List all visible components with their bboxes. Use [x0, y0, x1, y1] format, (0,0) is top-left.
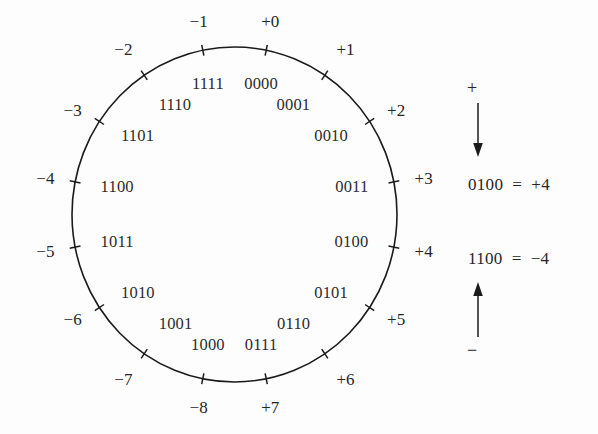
circle-outline-group [72, 47, 397, 382]
decimal-label-0000: +0 [261, 13, 279, 30]
tick-mark-0101 [365, 305, 374, 311]
binary-label-1100: 1100 [101, 179, 134, 196]
binary-label-0110: 0110 [277, 316, 310, 333]
tick-mark-1101 [95, 118, 104, 124]
tick-mark-1000 [202, 373, 204, 384]
tick-mark-0000 [265, 45, 267, 56]
decimal-label-0011: +3 [415, 169, 433, 186]
tick-mark-1010 [95, 305, 104, 311]
decimal-label-0101: +5 [387, 311, 405, 328]
tick-mark-0110 [322, 349, 328, 358]
legend-negative-sign: − [467, 341, 477, 359]
binary-label-1010: 1010 [121, 285, 155, 302]
decimal-label-0010: +2 [387, 101, 405, 118]
decimal-label-1000: −8 [190, 399, 208, 416]
binary-label-1111: 1111 [192, 76, 224, 93]
tick-mark-0011 [388, 181, 399, 183]
number-circle-outline [72, 47, 397, 382]
tick-mark-1100 [70, 181, 81, 183]
binary-label-1000: 1000 [191, 337, 225, 354]
binary-label-1110: 1110 [159, 97, 192, 114]
binary-label-0010: 0010 [314, 128, 348, 145]
circle-diagram-svg [0, 0, 598, 434]
legend-positive-equation: 0100 = +4 [468, 176, 550, 193]
legend-negative-equation: 1100 = −4 [468, 250, 549, 267]
tick-mark-0100 [388, 246, 399, 248]
decimal-label-0110: +6 [336, 371, 354, 388]
decimal-label-0100: +4 [415, 243, 433, 260]
tick-mark-1111 [202, 45, 204, 56]
decimal-label-1001: −7 [114, 371, 132, 388]
binary-label-0100: 0100 [335, 234, 369, 251]
legend-negative-arrow-group [473, 282, 483, 337]
tick-mark-0001 [322, 71, 328, 80]
legend-positive-arrow-group [473, 103, 483, 157]
decimal-label-1110: −2 [114, 41, 132, 58]
decimal-label-0001: +1 [336, 41, 354, 58]
decimal-label-1111: −1 [190, 13, 208, 30]
binary-label-0000: 0000 [244, 76, 278, 93]
binary-label-1001: 1001 [159, 316, 193, 333]
tick-mark-1110 [141, 71, 147, 80]
binary-label-0001: 0001 [276, 97, 310, 114]
tick-mark-1001 [141, 349, 147, 358]
number-circle-figure: +00000+10001+20010+30011+40100+50101+601… [0, 0, 598, 434]
up-arrow-head [473, 282, 483, 296]
binary-label-1101: 1101 [121, 128, 154, 145]
decimal-label-1010: −6 [64, 311, 82, 328]
binary-label-0011: 0011 [335, 179, 368, 196]
binary-label-0111: 0111 [245, 337, 278, 354]
legend-positive-sign: + [467, 79, 477, 97]
binary-label-1011: 1011 [101, 234, 134, 251]
binary-label-0101: 0101 [314, 285, 348, 302]
tick-mark-0010 [365, 118, 374, 124]
decimal-label-1011: −5 [36, 243, 54, 260]
decimal-label-0111: +7 [261, 399, 279, 416]
decimal-label-1100: −4 [36, 169, 54, 186]
decimal-label-1101: −3 [64, 101, 82, 118]
tick-mark-0111 [265, 373, 267, 384]
down-arrow-head [473, 143, 483, 157]
tick-mark-1011 [70, 246, 81, 248]
